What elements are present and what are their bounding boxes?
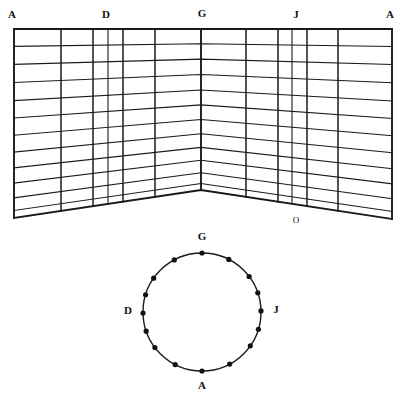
grid-horizontal-line [14, 105, 392, 119]
circle-division-dot [227, 361, 232, 366]
circle-division-dot [173, 362, 178, 367]
circle-division-dot [199, 250, 204, 255]
grid-horizontal-line [14, 59, 392, 64]
grid-horizontal-line [14, 184, 392, 212]
grid-horizontal-line [14, 134, 392, 153]
perspective-grid [14, 29, 392, 219]
circle-diagram [140, 250, 263, 373]
circle-division-dot [152, 345, 157, 350]
grid-label-d: D [102, 8, 110, 20]
circle-label-d: D [124, 304, 132, 316]
grid-horizontal-line [14, 44, 392, 47]
circle-division-dot [256, 327, 261, 332]
circle-division-dot [144, 329, 149, 334]
grid-label-g: G [198, 7, 207, 19]
circle-label-a: A [198, 379, 206, 391]
grid-label-j: J [293, 8, 299, 20]
circle-division-dot [143, 292, 148, 297]
circle-division-dot [140, 310, 145, 315]
figure-canvas: ADGJAOGDJA [0, 0, 402, 399]
circle-label-g: G [198, 230, 207, 242]
circle-division-dot [199, 368, 204, 373]
circle-label-j: J [273, 303, 279, 315]
grid-label-a: A [386, 8, 394, 20]
circle-division-dot [255, 290, 260, 295]
circle-division-dot [172, 257, 177, 262]
circle-division-dot [248, 343, 253, 348]
circle-outline [143, 253, 261, 371]
grid-horizontal-line [14, 147, 392, 168]
figure-root: ADGJAOGDJA [0, 0, 402, 399]
circle-division-dot [258, 308, 263, 313]
circle-division-dot [151, 276, 156, 281]
grid-horizontal-line [14, 160, 392, 184]
circle-division-dot [247, 274, 252, 279]
grid-horizontal-line [14, 90, 392, 101]
grid-label-o: O [293, 215, 300, 225]
grid-label-a: A [8, 8, 16, 20]
grid-horizontal-line [14, 119, 392, 135]
grid-horizontal-line [14, 75, 392, 83]
grid-horizontal-edge [14, 190, 392, 219]
circle-division-dot [226, 257, 231, 262]
